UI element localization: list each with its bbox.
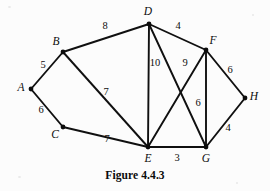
scan-speck: [236, 182, 238, 184]
edge-weight-b-d: 8: [102, 21, 107, 32]
scan-speck: [18, 176, 21, 178]
graph-vertex-e: [146, 145, 151, 150]
graph-edge: [31, 52, 63, 89]
edge-weight-d-f: 4: [175, 21, 180, 32]
vertex-label-f: F: [209, 35, 216, 47]
vertex-label-g: G: [202, 153, 210, 165]
scan-speck: [252, 14, 254, 16]
graph-vertex-h: [243, 96, 248, 101]
figure-container: ABCDEFGH 5687741096643 Figure 4.4.3: [0, 0, 270, 191]
edge-weight-e-g: 3: [174, 153, 179, 164]
graph-canvas: [0, 0, 270, 191]
edge-weight-f-h: 6: [227, 65, 232, 76]
graph-edge: [206, 50, 245, 98]
edge-weight-f-g: 6: [195, 98, 200, 109]
edge-weight-a-b: 5: [40, 60, 45, 71]
vertex-label-c: C: [51, 129, 59, 141]
graph-vertex-f: [204, 48, 209, 53]
graph-edge: [149, 24, 206, 147]
graph-edge: [31, 89, 63, 127]
edge-weight-d-e: 10: [150, 58, 161, 69]
edge-weight-b-e: 7: [103, 87, 108, 98]
graph-vertex-d: [147, 22, 152, 27]
edge-weight-c-e: 7: [104, 134, 109, 145]
graph-edge: [148, 24, 149, 147]
vertex-label-d: D: [144, 6, 152, 18]
graph-vertex-b: [61, 50, 66, 55]
vertex-label-a: A: [17, 82, 24, 94]
scan-speck: [8, 6, 11, 8]
figure-caption: Figure 4.4.3: [0, 169, 270, 181]
vertex-label-b: B: [52, 36, 59, 48]
vertex-label-e: E: [144, 153, 151, 165]
edge-weight-g-h: 4: [225, 123, 230, 134]
graph-vertex-g: [204, 145, 209, 150]
graph-vertex-c: [61, 125, 66, 130]
edge-weight-f-e: 9: [182, 58, 187, 69]
graph-vertex-a: [29, 87, 34, 92]
vertex-label-h: H: [250, 91, 258, 103]
edge-weight-a-c: 6: [38, 105, 43, 116]
